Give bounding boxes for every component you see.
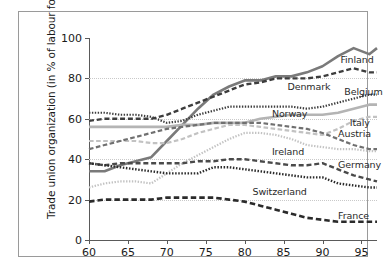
y-tick-label-80: 80 <box>68 72 82 85</box>
x-tick-mark-70 <box>167 240 168 244</box>
x-tick-mark-90 <box>323 240 324 244</box>
x-tick-label-95: 95 <box>354 246 368 259</box>
series-label-ireland: Ireland <box>272 146 304 157</box>
x-tick-label-60: 60 <box>82 246 96 259</box>
y-tick-label-0: 0 <box>75 234 82 247</box>
x-tick-mark-75 <box>206 240 207 244</box>
y-tick-label-20: 20 <box>68 193 82 206</box>
series-lines <box>89 38 377 240</box>
x-tick-label-75: 75 <box>199 246 213 259</box>
series-label-italy: Italy <box>350 116 370 127</box>
x-tick-mark-85 <box>284 240 285 244</box>
x-tick-label-70: 70 <box>160 246 174 259</box>
y-tick-label-100: 100 <box>61 32 82 45</box>
series-label-norway: Norway <box>272 107 307 118</box>
plot-area: 020406080100 6065707580859095 FinlandDen… <box>89 38 377 240</box>
x-tick-mark-95 <box>361 240 362 244</box>
series-label-france: France <box>338 209 369 220</box>
series-label-switzerland: Switzerland <box>252 185 306 196</box>
series-line-norway <box>89 105 377 127</box>
x-tick-label-85: 85 <box>277 246 291 259</box>
series-line-finland <box>89 48 377 171</box>
series-label-finland: Finland <box>340 54 373 65</box>
x-axis-line <box>89 240 377 241</box>
x-tick-label-90: 90 <box>316 246 330 259</box>
series-line-france <box>89 198 377 222</box>
x-tick-label-80: 80 <box>238 246 252 259</box>
x-tick-mark-80 <box>245 240 246 244</box>
series-line-italy <box>89 117 377 143</box>
y-axis-label: Trade union organization (in % of labour… <box>45 9 57 219</box>
series-label-denmark: Denmark <box>287 81 330 92</box>
series-label-austria: Austria <box>338 127 371 138</box>
y-tick-label-40: 40 <box>68 153 82 166</box>
x-tick-mark-60 <box>89 240 90 244</box>
y-tick-label-60: 60 <box>68 112 82 125</box>
x-tick-label-65: 65 <box>121 246 135 259</box>
series-label-belgium: Belgium <box>344 85 382 96</box>
series-label-germany: Germany <box>338 159 381 170</box>
chart-outer-border: Trade union organization (in % of labour… <box>18 11 368 257</box>
x-tick-mark-65 <box>128 240 129 244</box>
series-line-germany <box>89 159 377 181</box>
